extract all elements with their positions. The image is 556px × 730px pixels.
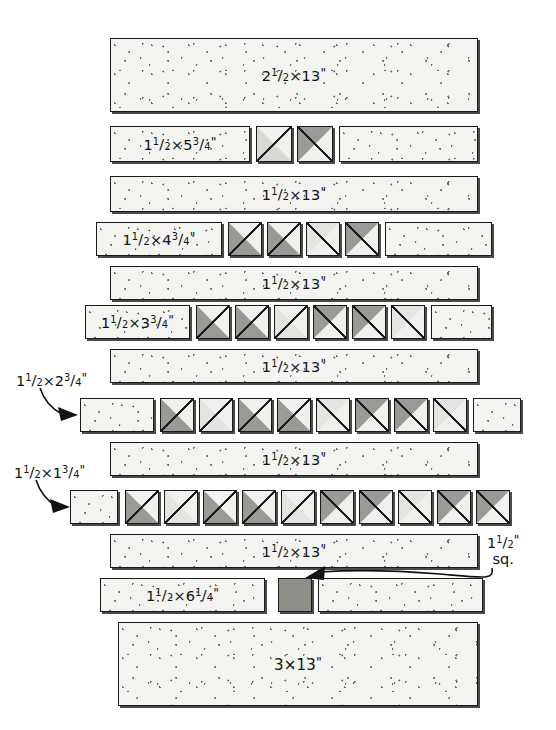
diagonal-seam <box>257 127 291 161</box>
half-square-triangle-dark <box>160 398 194 432</box>
half-square-triangle-dark <box>313 305 347 339</box>
diagonal-seam <box>395 399 427 431</box>
strip-1half-x-2three4 <box>80 398 154 432</box>
half-square-triangle-dark <box>345 222 379 256</box>
diagonal-seam <box>392 306 424 338</box>
strip-1half-x-13-e: 11/2×13" <box>110 534 478 568</box>
strip-1half-x-3three4: 11/2×33/4" <box>85 305 190 339</box>
diagonal-seam <box>165 491 197 523</box>
strip-remainder <box>385 222 492 256</box>
strip-remainder <box>431 305 492 339</box>
half-square-triangle-light <box>199 398 233 432</box>
strip-1half-x-5three4: 11/2×53/4" <box>110 126 250 162</box>
diagonal-seam <box>317 399 349 431</box>
half-square-triangle-dark <box>125 490 159 524</box>
diagonal-seam <box>278 399 310 431</box>
strip-1half-x-4three4: 11/2×43/4" <box>96 222 222 256</box>
half-square-triangle-light <box>391 305 425 339</box>
strip-1half-x-13-d: 11/2×13" <box>110 442 478 476</box>
strip-1half-x-1three4 <box>70 490 118 524</box>
arrow-line-1half-sq <box>320 568 492 577</box>
strip-1half-x-13-b: 11/2×13" <box>110 266 478 300</box>
half-square-triangle-dark <box>359 490 393 524</box>
half-square-triangle-dark <box>352 305 386 339</box>
diagonal-seam <box>239 399 271 431</box>
strip-remainder <box>473 398 521 432</box>
strip-2half-x-13: 21/2×13" <box>110 38 478 112</box>
diagonal-seam <box>346 223 378 255</box>
strip-label: 11/2×33/4" <box>86 313 189 331</box>
strip-label: 11/2×13" <box>111 357 477 375</box>
diagonal-seam <box>161 399 193 431</box>
strip-label: 3×13" <box>119 654 477 674</box>
half-square-triangle-dark <box>476 490 510 524</box>
diagonal-seam <box>360 491 392 523</box>
half-square-triangle-dark <box>437 490 471 524</box>
callout-1half-square: 11/2" sq. <box>487 534 519 567</box>
half-square-triangle-dark <box>267 222 301 256</box>
strip-label: 11/2×13" <box>111 274 477 292</box>
strip-label: 21/2×13" <box>111 66 477 84</box>
callout-1half-x-2three4: 11/2×23/4" <box>16 372 87 389</box>
strip-1half-x-13-c: 11/2×13" <box>110 349 478 383</box>
strip-label: 11/2×13" <box>111 450 477 468</box>
strip-label: 11/2×13" <box>111 542 477 560</box>
half-square-triangle-light <box>316 398 350 432</box>
half-square-triangle-dark <box>394 398 428 432</box>
half-square-triangle-light <box>398 490 432 524</box>
half-square-triangle-dark <box>228 222 262 256</box>
half-square-triangle-dark <box>235 305 269 339</box>
half-square-triangle-dark <box>297 126 333 162</box>
strip-3-x-13: 3×13" <box>118 622 478 706</box>
diagonal-seam <box>356 399 388 431</box>
half-square-triangle-light <box>274 305 308 339</box>
diagonal-seam <box>204 491 236 523</box>
callout-line-2: sq. <box>487 551 519 567</box>
half-square-triangle-light <box>256 126 292 162</box>
strip-label: 11/2×43/4" <box>97 230 221 248</box>
solid-square-1half <box>278 578 312 612</box>
diagonal-seam <box>229 223 261 255</box>
diagonal-seam <box>200 399 232 431</box>
diagonal-seam <box>399 491 431 523</box>
half-square-triangle-dark <box>277 398 311 432</box>
diagonal-seam <box>298 127 332 161</box>
strip-remainder <box>339 126 478 162</box>
callout-1half-x-1three4: 11/2×13/4" <box>14 464 85 481</box>
strip-label: 11/2×61/4" <box>101 586 264 604</box>
strip-1half-x-6one4: 11/2×61/4" <box>100 578 265 612</box>
diagonal-seam <box>434 399 466 431</box>
half-square-triangle-dark <box>238 398 272 432</box>
diagonal-seam <box>243 491 275 523</box>
half-square-triangle-dark <box>196 305 230 339</box>
diagonal-seam <box>236 306 268 338</box>
strip-label: 11/2×53/4" <box>111 135 249 153</box>
half-square-triangle-light <box>306 222 340 256</box>
diagonal-seam <box>314 306 346 338</box>
strip-remainder <box>318 578 483 612</box>
diagonal-seam <box>268 223 300 255</box>
cutting-diagram: 21/2×13" 11/2×53/4" 11/2×13" 11/2×43/4" … <box>0 0 556 730</box>
strip-label: 11/2×13" <box>111 185 477 203</box>
diagonal-seam <box>282 491 314 523</box>
arrow-line-2three4 <box>40 388 62 414</box>
diagonal-seam <box>307 223 339 255</box>
half-square-triangle-dark <box>242 490 276 524</box>
half-square-triangle-light <box>164 490 198 524</box>
diagonal-seam <box>275 306 307 338</box>
half-square-triangle-light <box>281 490 315 524</box>
half-square-triangle-dark <box>355 398 389 432</box>
strip-1half-x-13-a: 11/2×13" <box>110 176 478 212</box>
half-square-triangle-light <box>433 398 467 432</box>
callout-line-1: 11/2" <box>487 534 519 551</box>
diagonal-seam <box>321 491 353 523</box>
diagonal-seam <box>438 491 470 523</box>
arrow-head-2three4 <box>58 407 78 421</box>
diagonal-seam <box>126 491 158 523</box>
half-square-triangle-dark <box>203 490 237 524</box>
half-square-triangle-dark <box>320 490 354 524</box>
arrow-head-1three4 <box>50 499 70 513</box>
diagonal-seam <box>353 306 385 338</box>
diagonal-seam <box>197 306 229 338</box>
diagonal-seam <box>477 491 509 523</box>
